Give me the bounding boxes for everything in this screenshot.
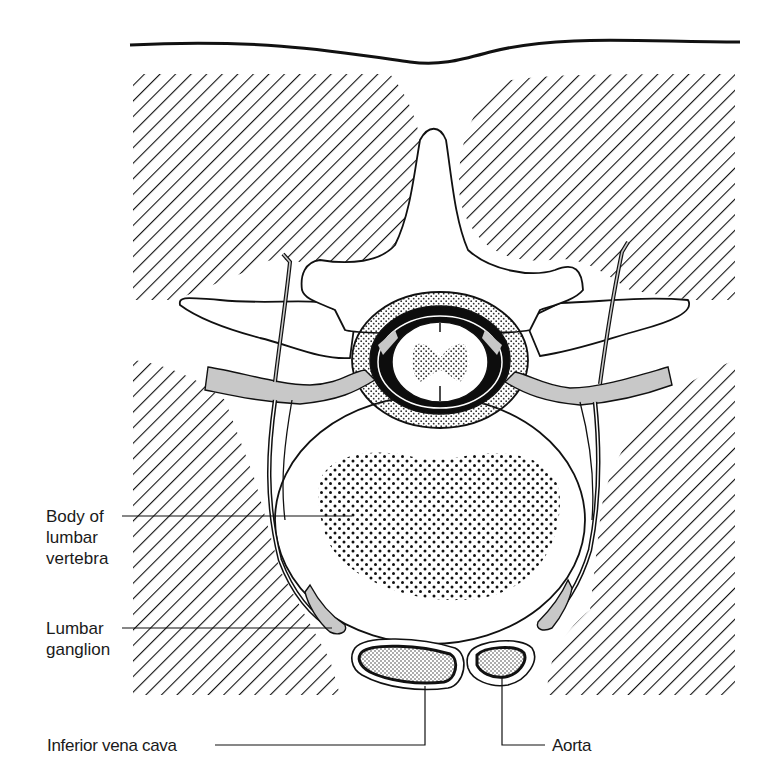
- label-inferior-vena-cava: Inferior vena cava: [47, 735, 177, 756]
- lumbar-cross-section-diagram: [0, 0, 782, 769]
- label-body-of-lumbar-vertebra: Body of lumbar vertebra: [46, 506, 108, 569]
- label-lumbar-ganglion: Lumbar ganglion: [46, 618, 110, 660]
- label-aorta: Aorta: [552, 735, 591, 756]
- skin-surface-line: [130, 40, 740, 63]
- aorta-lumen: [477, 647, 525, 677]
- leader-aorta: [502, 678, 545, 745]
- right-erector-muscle: [459, 74, 735, 300]
- right-spinal-nerve: [505, 367, 672, 405]
- left-spinal-nerve: [205, 367, 375, 404]
